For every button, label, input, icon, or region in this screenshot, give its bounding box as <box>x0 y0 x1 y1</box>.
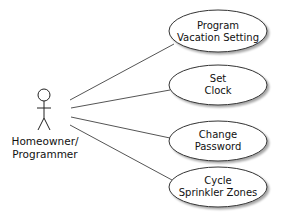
use-case-label-line1: Set <box>210 73 227 84</box>
use-case-label-line2: Password <box>195 141 242 152</box>
use-case-cycle-sprinkler-zones[interactable]: Cycle Sprinkler Zones <box>169 167 267 207</box>
association-line-clock <box>71 90 170 108</box>
use-case-set-clock[interactable]: Set Clock <box>169 65 267 105</box>
use-case-program-vacation-setting[interactable]: Program Vacation Setting <box>169 10 267 52</box>
use-case-label-line2: Clock <box>204 85 231 96</box>
actor[interactable] <box>37 89 51 130</box>
actor-label-line1: Homeowner/ <box>12 135 79 147</box>
use-case-diagram: Homeowner/ Programmer Program Vacation S… <box>0 0 281 219</box>
use-case-label-line1: Change <box>199 129 237 140</box>
use-case-label-line2: Sprinkler Zones <box>179 187 258 198</box>
actor-right-leg <box>44 118 50 130</box>
use-case-label-line1: Cycle <box>204 175 231 186</box>
associations <box>70 44 174 180</box>
association-line-vacation <box>70 44 174 100</box>
association-line-password <box>71 117 170 138</box>
use-case-label-line2: Vacation Setting <box>177 32 259 43</box>
association-line-sprinkler <box>70 125 172 180</box>
actor-label-line2: Programmer <box>12 148 78 160</box>
use-case-change-password[interactable]: Change Password <box>169 121 267 161</box>
use-case-label-line1: Program <box>197 20 239 31</box>
actor-head-icon <box>38 89 50 101</box>
actor-left-leg <box>38 118 44 130</box>
